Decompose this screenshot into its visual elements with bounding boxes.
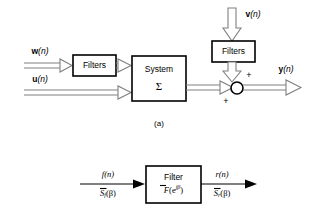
panel-b: f(n) Sf(β) Filter F(ejβ) r(n) Sr(β) — [80, 166, 257, 203]
signal-label-u: u(n) — [32, 74, 48, 84]
filter-output-label-bottom: Sr(β) — [214, 188, 231, 198]
w-signal-bus — [24, 59, 72, 72]
block-diagram-figure: w(n) u(n) Filters System Σ — [0, 0, 316, 214]
block-filter-label: Filter — [164, 172, 183, 182]
signal-label-y: y(n) — [278, 64, 293, 74]
system-to-sum-bus — [186, 81, 233, 94]
block-system: System Σ — [132, 56, 186, 101]
filter-input-arrowhead — [133, 180, 145, 189]
filters-to-system-bus — [116, 59, 131, 72]
filters-top-to-sum-arrow — [223, 62, 241, 82]
block-filters-left-label: Filters — [83, 60, 106, 70]
y-output-bus — [243, 80, 301, 95]
figure-container: w(n) u(n) Filters System Σ — [0, 0, 316, 214]
block-filter: Filter F(ejβ) — [146, 166, 201, 203]
summing-junction-plus-top: + — [246, 70, 251, 80]
summing-junction-node — [231, 82, 243, 94]
block-system-label: System — [145, 64, 173, 74]
block-filters-top: Filters — [212, 41, 255, 62]
y-output-arrowhead — [286, 80, 301, 95]
filter-input-label-top: f(n) — [102, 169, 114, 179]
panel-a-caption: (a) — [154, 119, 164, 128]
filters-top-to-sum-arrowhead — [223, 62, 241, 82]
v-input-arrowhead — [223, 8, 241, 41]
filter-output-arrowhead — [245, 180, 257, 189]
filter-input-label-bottom: Sf(β) — [100, 188, 116, 198]
filter-output-label-top: r(n) — [215, 169, 228, 179]
panel-a: w(n) u(n) Filters System Σ — [24, 8, 301, 128]
signal-label-w: w(n) — [30, 46, 48, 56]
filters-to-system-arrowhead — [118, 59, 131, 72]
w-bus-arrowhead — [60, 59, 72, 72]
block-system-sigma: Σ — [156, 80, 162, 92]
block-filters-top-label: Filters — [222, 46, 245, 56]
block-filters-left: Filters — [73, 55, 116, 76]
signal-label-v: v(n) — [245, 9, 260, 19]
u-signal-bus — [24, 86, 131, 99]
v-input-arrow — [223, 8, 241, 41]
u-bus-arrowhead — [118, 86, 131, 99]
summing-junction-plus-bottom: + — [223, 96, 228, 106]
